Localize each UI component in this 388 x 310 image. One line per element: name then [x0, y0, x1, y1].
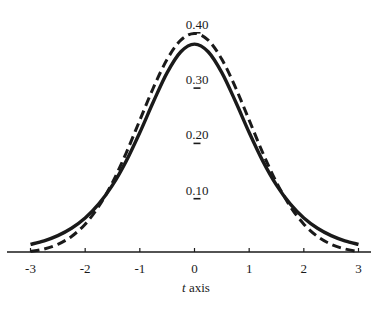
y-tick-label: 0.20	[186, 127, 209, 142]
x-tick-label: 0	[191, 261, 198, 276]
x-tick-label: 2	[301, 261, 308, 276]
x-axis-title: t axis	[182, 280, 210, 295]
density-chart: -3-2-10123 0.100.200.300.40 t axis	[0, 0, 388, 310]
x-tick-label: -2	[80, 261, 91, 276]
y-tick-label: 0.10	[186, 183, 209, 198]
x-tick-label: 3	[355, 261, 362, 276]
normal-curve-dashed	[31, 33, 359, 251]
y-tick-label: 0.30	[186, 72, 209, 87]
x-tick-label: -3	[25, 261, 36, 276]
plot-area	[31, 33, 359, 251]
x-axis-title-rest: axis	[186, 280, 210, 295]
x-tick-label: -1	[134, 261, 145, 276]
x-tick-label: 1	[246, 261, 253, 276]
y-tick-label: 0.40	[186, 17, 209, 32]
